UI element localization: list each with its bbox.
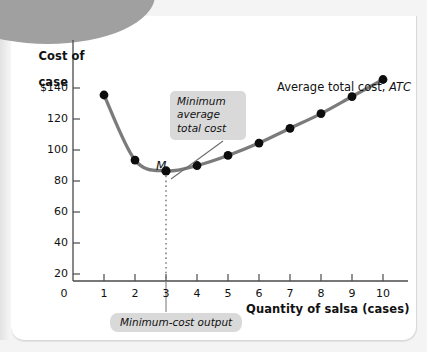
data-point-5 — [224, 151, 233, 160]
callout-minimum-cost-output: Minimum-cost output — [110, 313, 242, 332]
x-tick-label-5: 5 — [218, 288, 238, 300]
callout-line-1: Minimum — [177, 95, 226, 107]
x-tick-label-8: 8 — [311, 288, 331, 300]
x-tick-label-7: 7 — [280, 288, 300, 300]
x-tick-label-10: 10 — [373, 288, 393, 300]
y-tick-label-140: $140 — [20, 82, 68, 94]
data-point-6 — [255, 139, 264, 148]
x-tick-label-2: 2 — [125, 288, 145, 300]
x-tick-label-6: 6 — [249, 288, 269, 300]
atc-curve-label-text: Average total cost, — [277, 80, 389, 94]
x-axis-ticks — [104, 274, 383, 281]
y-tick-label-60: 60 — [20, 206, 68, 218]
callout-line-2: average — [177, 108, 220, 120]
y-tick-label-100: 100 — [20, 144, 68, 156]
data-point-1 — [100, 91, 109, 100]
y-tick-label-80: 80 — [20, 175, 68, 187]
y-tick-label-20: 20 — [20, 268, 68, 280]
y-axis-title-line1: Cost of — [38, 49, 84, 63]
callout-line-3: total cost — [177, 122, 226, 134]
origin-label: 0 — [54, 288, 74, 300]
minimum-point-label: M — [156, 160, 166, 173]
callout-minimum-average-total-cost: Minimum average total cost — [170, 91, 246, 140]
x-tick-label-3: 3 — [156, 288, 176, 300]
atc-curve-label-abbrev: ATC — [389, 80, 411, 94]
y-axis-ticks — [73, 88, 80, 274]
y-tick-label-120: 120 — [20, 113, 68, 125]
data-point-2 — [131, 156, 140, 165]
x-axis-title: Quantity of salsa (cases) — [246, 303, 410, 316]
x-tick-label-9: 9 — [342, 288, 362, 300]
atc-curve-label: Average total cost, ATC — [277, 81, 411, 94]
data-point-8 — [317, 109, 326, 118]
x-tick-label-1: 1 — [94, 288, 114, 300]
figure-root: Cost of case $140 120 100 80 60 40 20 0 … — [0, 0, 427, 352]
data-point-7 — [286, 124, 295, 133]
y-tick-label-40: 40 — [20, 237, 68, 249]
x-tick-label-4: 4 — [187, 288, 207, 300]
